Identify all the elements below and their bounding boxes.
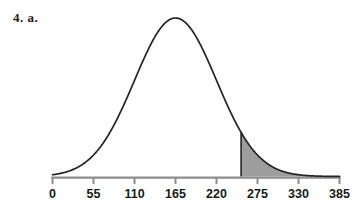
figure-container: 4. a. 055110165220275330385 xyxy=(0,0,364,206)
normal-distribution-chart xyxy=(0,0,364,206)
normal-curve xyxy=(53,18,340,176)
